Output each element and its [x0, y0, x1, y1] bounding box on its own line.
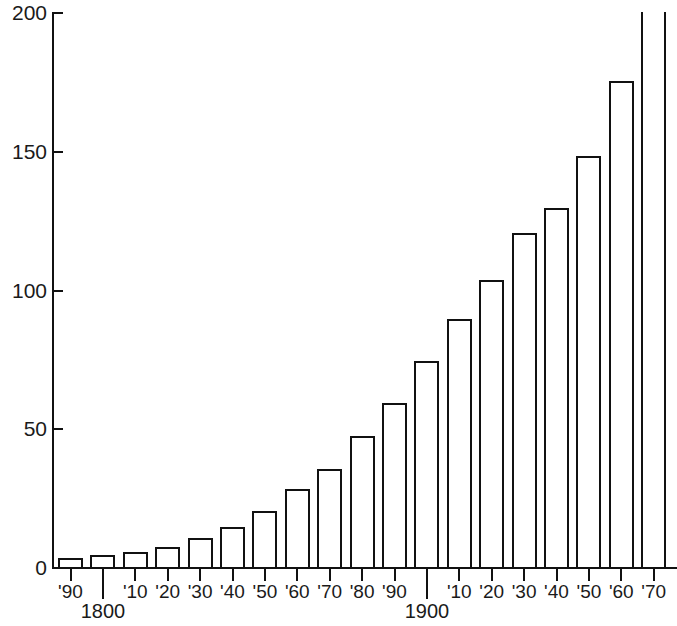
bar [544, 208, 569, 569]
y-tick-label: 50 [1, 418, 47, 439]
y-tick-label: 100 [1, 280, 47, 301]
y-axis-tick-labels: 050100150200 [0, 0, 47, 626]
x-tick-mark [394, 569, 396, 581]
x-century-tick-mark [102, 569, 104, 599]
x-tick-mark [458, 569, 460, 581]
x-tick-mark [620, 569, 622, 581]
x-tick-mark [556, 569, 558, 581]
bar [609, 81, 634, 569]
x-tick-mark [167, 569, 169, 581]
bar [382, 403, 407, 570]
bar [252, 511, 277, 569]
y-tick-label: 200 [1, 2, 47, 23]
bar [317, 469, 342, 569]
x-tick-mark [296, 569, 298, 581]
x-tick-mark [70, 569, 72, 581]
bar [350, 436, 375, 569]
x-tick-mark [264, 569, 266, 581]
x-tick-label: '90 [370, 582, 420, 601]
x-tick-mark [491, 569, 493, 581]
x-century-label: 1800 [68, 601, 138, 621]
bar [447, 319, 472, 569]
x-axis: '901800'10'20'30'40'50'60'70'80'901900'1… [0, 569, 677, 626]
x-tick-mark [588, 569, 590, 581]
plot-area [53, 13, 677, 569]
bar [155, 547, 180, 569]
x-tick-mark [653, 569, 655, 581]
bar [641, 12, 666, 569]
x-tick-mark [329, 569, 331, 581]
bar [414, 361, 439, 569]
x-tick-label: '90 [46, 582, 96, 601]
x-tick-label: '70 [629, 582, 677, 601]
x-tick-mark [134, 569, 136, 581]
bar [188, 538, 213, 569]
bar [220, 527, 245, 569]
bar [479, 280, 504, 569]
y-tick-label: 150 [1, 141, 47, 162]
bar [576, 156, 601, 569]
x-century-label: 1900 [392, 601, 462, 621]
bar [285, 489, 310, 569]
x-tick-mark [232, 569, 234, 581]
x-tick-mark [361, 569, 363, 581]
bar [512, 233, 537, 569]
x-tick-mark [199, 569, 201, 581]
x-century-tick-mark [426, 569, 428, 599]
x-tick-mark [523, 569, 525, 581]
bar-chart: 050100150200 '901800'10'20'30'40'50'60'7… [0, 0, 677, 626]
